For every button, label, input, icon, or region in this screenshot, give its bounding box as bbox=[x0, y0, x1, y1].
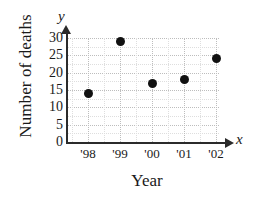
gridline-horizontal-minor bbox=[67, 133, 219, 134]
gridline-horizontal bbox=[67, 73, 219, 74]
y-tick-label: 30 bbox=[37, 31, 63, 45]
y-tick-label: 20 bbox=[37, 66, 63, 80]
x-axis-title: Year bbox=[62, 171, 232, 191]
gridline-horizontal-minor bbox=[67, 64, 219, 65]
gridline-horizontal bbox=[67, 125, 219, 126]
gridline-vertical bbox=[120, 38, 121, 142]
x-tick-label: '02 bbox=[199, 147, 233, 161]
gridline-vertical-minor bbox=[136, 38, 137, 142]
y-tick-label: 5 bbox=[37, 118, 63, 132]
x-tick-label: '01 bbox=[167, 147, 201, 161]
y-axis-tick-labels: 051015202530 bbox=[33, 0, 63, 201]
gridline-vertical-minor bbox=[72, 38, 73, 142]
gridline-vertical-minor bbox=[200, 38, 201, 142]
data-point bbox=[180, 75, 189, 84]
gridline-vertical-minor bbox=[104, 38, 105, 142]
x-tick-label: '99 bbox=[103, 147, 137, 161]
gridline-horizontal bbox=[67, 38, 219, 39]
y-tick-label: 15 bbox=[37, 83, 63, 97]
scatter-plot-figure: Number of deaths y x 051015202530 '98'99… bbox=[0, 0, 258, 201]
data-point bbox=[116, 37, 125, 46]
data-point bbox=[84, 89, 93, 98]
gridline-horizontal-minor bbox=[67, 99, 219, 100]
x-axis-line bbox=[66, 142, 226, 144]
data-point bbox=[148, 79, 157, 88]
x-axis-variable-label: x bbox=[236, 131, 243, 148]
x-axis-tick-labels: '98'99'00'01'02 bbox=[0, 147, 258, 167]
plot-area bbox=[67, 38, 219, 142]
gridline-horizontal bbox=[67, 107, 219, 108]
y-axis-line bbox=[66, 32, 68, 143]
gridline-horizontal-minor bbox=[67, 116, 219, 117]
gridline-horizontal bbox=[67, 55, 219, 56]
y-tick-label: 25 bbox=[37, 48, 63, 62]
x-tick-label: '98 bbox=[71, 147, 105, 161]
gridline-horizontal-minor bbox=[67, 47, 219, 48]
gridline-vertical bbox=[184, 38, 185, 142]
gridline-vertical-minor bbox=[168, 38, 169, 142]
x-tick-label: '00 bbox=[135, 147, 169, 161]
y-tick-label: 10 bbox=[37, 100, 63, 114]
gridline-horizontal-minor bbox=[67, 81, 219, 82]
data-point bbox=[212, 54, 221, 63]
gridline-vertical bbox=[152, 38, 153, 142]
